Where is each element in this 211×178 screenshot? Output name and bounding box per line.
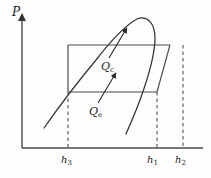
tick-label-h3: h3 xyxy=(61,155,72,167)
axes-group xyxy=(22,20,203,148)
evaporator-heat-label: Qe xyxy=(89,106,102,119)
qe-symbol: Q xyxy=(89,105,98,118)
condenser-heat-label: Qc xyxy=(101,61,114,74)
diagram-canvas xyxy=(0,0,211,178)
y-axis-label: P xyxy=(12,6,20,18)
tick-h3-subscript: 3 xyxy=(67,159,71,167)
qe-arrow xyxy=(98,76,114,103)
qe-subscript: e xyxy=(98,111,102,119)
qc-symbol: Q xyxy=(101,60,110,73)
ph-diagram-figure: P Qc Qe h3 h1 h2 xyxy=(0,0,211,178)
tick-label-h1: h1 xyxy=(147,155,158,167)
qc-subscript: c xyxy=(110,66,114,74)
tick-label-h2: h2 xyxy=(175,155,186,167)
tick-h1-subscript: 1 xyxy=(153,159,157,167)
tick-h2-subscript: 2 xyxy=(181,159,185,167)
compression-line xyxy=(157,45,170,92)
cycle-quadrilateral xyxy=(68,45,170,92)
